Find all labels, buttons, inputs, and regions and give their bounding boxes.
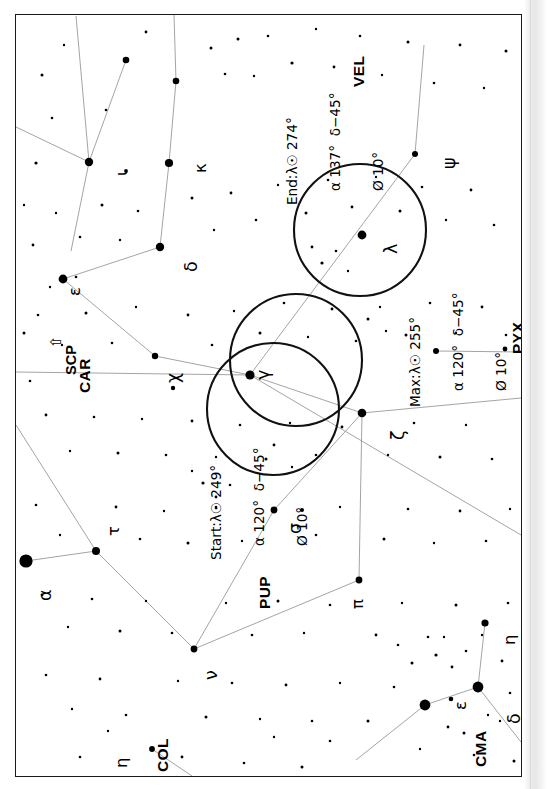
- page-edge-shading: [524, 0, 547, 789]
- star-label-psi: ψ: [440, 157, 459, 169]
- star-label-delta-car: δ: [182, 261, 201, 272]
- constellation-label-pup: PUP: [257, 576, 273, 609]
- star-label-kappa: κ: [192, 163, 209, 173]
- max-info-line3: Ø 10°: [494, 293, 508, 391]
- constellation-label-cma: CMA: [473, 731, 489, 768]
- constellation-label-pyx: PYX: [510, 322, 522, 354]
- star-label-sigma: σ: [286, 523, 305, 534]
- star-label-lambda: λ: [382, 244, 401, 254]
- star-label-pi: π: [349, 599, 366, 609]
- star-label-eta-col: η: [113, 758, 130, 768]
- chart-frame: End:λ☉ 274° α 137° δ−45° Ø 10° Max:λ☉ 25…: [15, 14, 522, 777]
- star-chart-page: End:λ☉ 274° α 137° δ−45° Ø 10° Max:λ☉ 25…: [0, 0, 547, 789]
- end-radiant-info: End:λ☉ 274° α 137° δ−45° Ø 10°: [256, 93, 414, 205]
- end-info-line2: α 137° δ−45°: [328, 93, 342, 191]
- star-label-zeta: ζ: [389, 430, 408, 440]
- constellation-label-vel: VEL: [351, 56, 367, 87]
- scp-label: SCP: [64, 345, 79, 375]
- page-edge-line: [530, 0, 531, 789]
- max-info-line2: α 120° δ−45°: [451, 293, 465, 391]
- star-label-nu: ν: [202, 670, 221, 680]
- star-label-tau: τ: [105, 526, 122, 536]
- constellation-label-col: COL: [155, 738, 171, 772]
- max-info-line1: Max:λ☉ 255°: [408, 293, 422, 407]
- start-info-line1: Start:λ☉ 249°: [209, 448, 223, 560]
- end-info-line3: Ø 10°: [371, 93, 385, 191]
- end-info-line1: End:λ☉ 274°: [285, 93, 299, 205]
- star-label-delta-cma: δ: [505, 713, 522, 724]
- scp-arrow-icon: ⇧: [49, 335, 65, 348]
- star-label-epsilon-car: ε: [66, 287, 83, 296]
- start-radiant-info: Start:λ☉ 249° α 120° δ−45° Ø 10°: [180, 448, 338, 560]
- star-label-gamma: γ: [254, 370, 273, 380]
- star-label-epsilon-cma: ε: [452, 701, 469, 710]
- start-info-line2: α 120° δ−45°: [252, 448, 266, 546]
- constellation-label-car: CAR: [77, 358, 93, 393]
- sky-field: End:λ☉ 274° α 137° δ−45° Ø 10° Max:λ☉ 25…: [16, 15, 521, 776]
- star-label-iota: ι: [113, 170, 130, 176]
- star-label-chi: χ: [164, 373, 183, 383]
- max-radiant-info: Max:λ☉ 255° α 120° δ−45° Ø 10° ZHR~9: [379, 293, 522, 407]
- star-label-alpha: α: [36, 589, 55, 601]
- star-label-eta-cma: η: [501, 635, 518, 645]
